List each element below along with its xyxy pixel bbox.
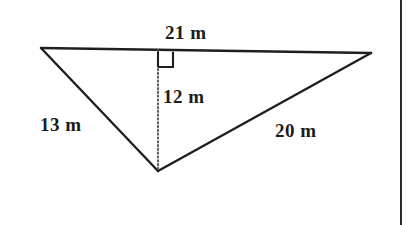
left-side-label: 13 m	[40, 115, 82, 134]
right-side-line	[158, 53, 371, 171]
height-label: 12 m	[163, 87, 205, 106]
right-side-label: 20 m	[275, 121, 317, 140]
top-side-line	[41, 48, 371, 53]
right-angle-square-icon	[158, 52, 173, 68]
left-side-line	[41, 48, 158, 171]
triangle-diagram-figure: 21 m 12 m 13 m 20 m	[0, 0, 412, 225]
page-divider	[400, 0, 402, 225]
top-side-label: 21 m	[165, 23, 207, 42]
